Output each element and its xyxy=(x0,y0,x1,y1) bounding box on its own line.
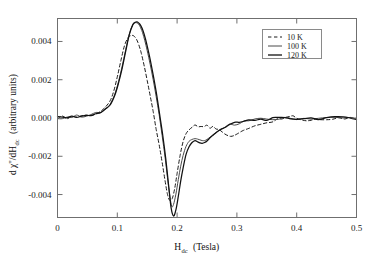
x-tick-label: 0.3 xyxy=(231,223,243,233)
y-tick-label: 0.000 xyxy=(31,113,52,123)
x-axis-title: H dc (Tesla) xyxy=(174,242,219,254)
y-axis-title: d χ''/dH dc (arbitrary units) xyxy=(8,74,20,175)
y-tick-label: 0.004 xyxy=(31,36,52,46)
chart-canvas: 00.10.20.30.40.5 0.0040.0020.000-0.002-0… xyxy=(0,0,372,265)
y-axis-title-unit: (arbitrary units) xyxy=(8,74,19,134)
legend: 10 K100 K120 K xyxy=(263,30,322,61)
legend-label-100-k: 100 K xyxy=(287,42,307,51)
legend-label-120-k: 120 K xyxy=(287,51,307,60)
x-tick-label: 0.2 xyxy=(171,223,182,233)
legend-label-10-k: 10 K xyxy=(287,33,303,42)
x-axis-title-unit: (Tesla) xyxy=(193,242,219,253)
x-tick-label: 0.1 xyxy=(112,223,123,233)
y-axis-title-main: d χ''/dH xyxy=(8,146,18,175)
y-tick-label: 0.002 xyxy=(31,75,51,85)
x-axis-title-main: H xyxy=(174,242,181,252)
x-axis-title-sub: dc xyxy=(182,247,188,254)
x-tick-label: 0 xyxy=(55,223,60,233)
y-tick-label: -0.004 xyxy=(28,190,52,200)
figure-container: 00.10.20.30.40.5 0.0040.0020.000-0.002-0… xyxy=(0,0,372,265)
x-tick-label: 0.5 xyxy=(351,223,363,233)
y-tick-label: -0.002 xyxy=(28,151,51,161)
x-tick-label: 0.4 xyxy=(291,223,303,233)
y-axis-title-sub: dc xyxy=(13,139,20,145)
